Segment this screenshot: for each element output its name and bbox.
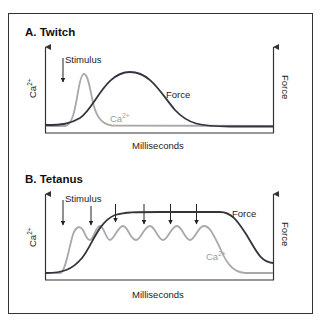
calcium-label: Ca2+ [110,112,130,124]
left-axis-label: Ca2+ [26,227,38,247]
left-axis-label: Ca2+ [26,78,38,98]
calcium-curve [46,226,273,273]
stimulus-label: Stimulus [65,193,102,204]
x-axis-label: Milliseconds [132,289,184,300]
force-curve [46,212,273,273]
right-axis-label: Force [280,222,291,246]
panel-twitch: A. Twitch Ca2+ Force Milliseconds Stimul… [25,26,291,151]
right-axis-label: Force [280,75,291,99]
force-label: Force [232,208,256,219]
panel-b-title: B. Tetanus [25,173,83,185]
force-label: Force [166,89,190,100]
calcium-label: Ca2+ [206,250,226,262]
x-axis-label: Milliseconds [132,140,184,151]
figure-svg: A. Twitch Ca2+ Force Milliseconds Stimul… [0,0,326,330]
stimulus-label: Stimulus [65,54,102,65]
panel-tetanus: B. Tetanus Ca2+ Force Milliseconds Stimu… [25,173,291,300]
panel-a-title: A. Twitch [25,26,75,38]
